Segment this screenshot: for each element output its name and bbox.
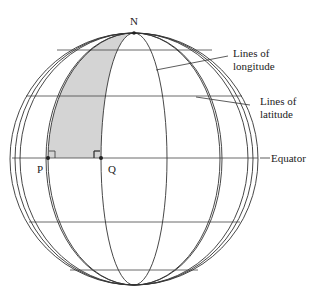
latitude-leader [196, 97, 250, 105]
point-q-label: Q [108, 163, 116, 175]
longitude-label-line2: longitude [233, 60, 275, 72]
latitude-label-line2: latitude [260, 108, 293, 120]
north-label: N [130, 15, 138, 27]
north-pole-point [132, 31, 136, 35]
meridian [20, 33, 248, 285]
point-p [46, 156, 50, 160]
point-p-label: P [37, 163, 43, 175]
latitude-lines [12, 50, 258, 270]
longitude-leader [156, 56, 228, 70]
equator-label: Equator [271, 152, 306, 164]
shaded-region [48, 33, 134, 158]
longitude-label-line1: Lines of [233, 47, 270, 59]
globe-diagram: N P Q Lines of longitude Lines of latitu… [0, 0, 316, 299]
latitude-label-line1: Lines of [260, 95, 297, 107]
meridian [15, 33, 253, 285]
point-q [99, 156, 103, 160]
meridian [101, 33, 167, 285]
